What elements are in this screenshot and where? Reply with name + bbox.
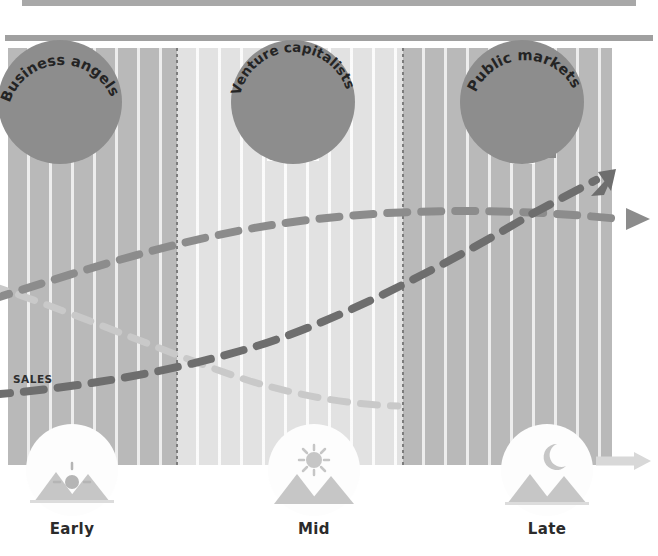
chart-canvas: SALES Business angels xyxy=(0,0,658,556)
svg-text:Venture capitalists: Venture capitalists xyxy=(227,39,358,97)
divider-early-mid xyxy=(176,48,178,465)
sun-mountains-icon xyxy=(268,424,360,516)
svg-text:Business angels: Business angels xyxy=(0,52,123,104)
stage-node-early[interactable]: Early xyxy=(26,424,118,516)
actor-public-markets[interactable]: Public markets xyxy=(460,40,584,164)
top-table-frame xyxy=(22,0,636,6)
actor-business-angels-label: Business angels xyxy=(0,40,122,164)
stage-node-mid-label: Mid xyxy=(268,520,360,538)
actor-venture-capitalists[interactable]: Venture capitalists xyxy=(231,40,355,164)
moon-mountains-icon xyxy=(501,424,593,516)
stage-node-late-label: Late xyxy=(501,520,593,538)
top-table-column-divider xyxy=(315,0,321,6)
actor-business-angels[interactable]: Business angels xyxy=(0,40,122,164)
stage-node-early-label: Early xyxy=(26,520,118,538)
sunrise-mountains-icon xyxy=(26,424,118,516)
curve-valuation-arrowhead xyxy=(626,208,650,230)
actor-venture-capitalists-label: Venture capitalists xyxy=(231,40,355,164)
divider-mid-late xyxy=(402,48,404,465)
stage-node-mid[interactable]: Mid xyxy=(268,424,360,516)
sales-series-label: SALES xyxy=(13,373,53,385)
svg-text:Public markets: Public markets xyxy=(464,47,584,94)
stage-node-late[interactable]: Late xyxy=(501,424,593,516)
actor-public-markets-label: Public markets xyxy=(460,40,584,164)
